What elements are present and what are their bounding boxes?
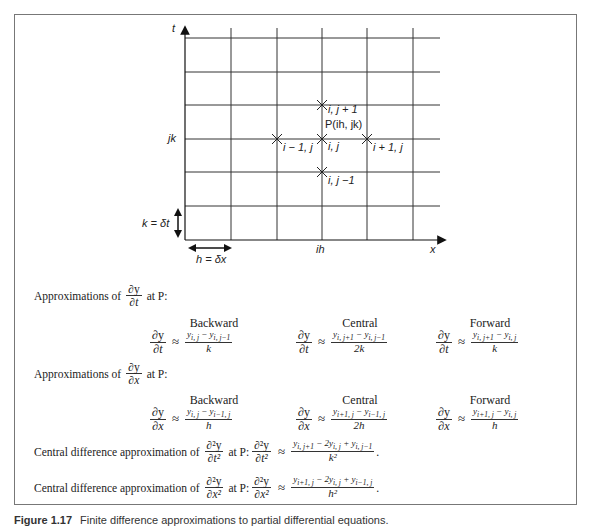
node-label-right: i + 1, j — [373, 141, 403, 153]
point-p-label: P(ih, jk) — [325, 118, 362, 130]
dx-forward-eq: ∂y∂x ≈ yi+1, j − yi, jh — [434, 406, 520, 432]
dx-derivative: ∂y∂x — [126, 361, 141, 386]
h-label: h = δx — [196, 253, 226, 265]
k-label: k = δt — [142, 217, 169, 229]
dt-forward-eq: ∂y∂t ≈ yi, j+1 − yi, jk — [434, 329, 520, 355]
dt-derivative: ∂y∂t — [126, 283, 141, 308]
col-label-ih: ih — [316, 243, 325, 255]
second-t-eq: Central difference approximation of ∂²y∂… — [34, 439, 379, 464]
figure-caption: Figure 1.17Finite difference approximati… — [14, 514, 388, 526]
node-label-up: i, j + 1 — [328, 103, 358, 115]
second-x-eq: Central difference approximation of ∂²y∂… — [34, 475, 379, 500]
x-axis-label: x — [430, 243, 436, 255]
t-axis-label: t — [172, 22, 175, 34]
finite-difference-grid — [0, 0, 594, 270]
node-label-down: i, j −1 — [328, 174, 355, 186]
dx-central-eq: ∂y∂x ≈ yi+1, j − yi−1, j2h — [294, 406, 389, 432]
dx-backward-eq: ∂y∂x ≈ yi, j − yi−1, jh — [148, 406, 234, 432]
node-label-left: i − 1, j — [283, 141, 313, 153]
dx-intro: Approximations of ∂y∂x at P: — [34, 361, 167, 386]
dt-intro: Approximations of ∂y∂t at P: — [34, 283, 167, 308]
dt-backward-eq: ∂y∂t ≈ yi, j − yi, j−1k — [148, 329, 234, 355]
dt-central-eq: ∂y∂t ≈ yi, j+1 − yi, j−12k — [294, 329, 389, 355]
node-label-center: i, j — [328, 140, 339, 152]
row-label-jk: jk — [168, 132, 176, 144]
